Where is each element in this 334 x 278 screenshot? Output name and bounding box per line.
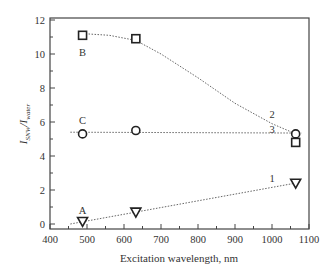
y-tick-label: 10 [35,49,46,60]
square-marker [292,138,300,146]
y-tick-label: 4 [40,151,46,162]
annotations: ABC123 [79,47,275,216]
fit-line-1 [70,182,299,224]
circle-marker [132,127,140,135]
annotation-1: 1 [269,173,274,184]
y-axis: 024681012 [35,15,56,230]
y-tick-label: 2 [40,185,45,196]
fit-line-2 [83,34,300,136]
y-tick-label: 6 [40,117,45,128]
x-tick-label: 1000 [262,234,283,245]
y-tick-label: 8 [40,83,45,94]
y-axis-title: ISNW/Iwater [17,104,32,146]
x-tick-label: 500 [79,234,95,245]
annotation-B: B [79,47,86,58]
square-marker [79,31,87,39]
data-markers [78,31,301,226]
x-axis: 40050060070080090010001100 [42,224,319,245]
x-tick-label: 900 [227,234,243,245]
x-tick-label: 700 [153,234,169,245]
triangle-marker [78,217,88,226]
x-tick-label: 400 [42,234,58,245]
annotation-A: A [79,205,87,216]
y-tick-label: 12 [35,15,46,26]
x-axis-title: Excitation wavelength, nm [120,252,239,264]
x-tick-label: 600 [116,234,132,245]
annotation-3: 3 [269,124,274,135]
x-tick-label: 800 [190,234,206,245]
fit-lines [70,34,301,224]
chart: 40050060070080090010001100 024681012 ABC… [0,0,334,278]
circle-marker [292,130,300,138]
fit-line-3 [70,132,301,133]
annotation-2: 2 [269,109,274,120]
x-tick-label: 1100 [299,234,320,245]
annotation-C: C [79,115,86,126]
square-marker [132,35,140,43]
y-tick-label: 0 [40,219,45,230]
svg-text:ISNW/Iwater: ISNW/Iwater [17,104,32,146]
circle-marker [79,130,87,138]
